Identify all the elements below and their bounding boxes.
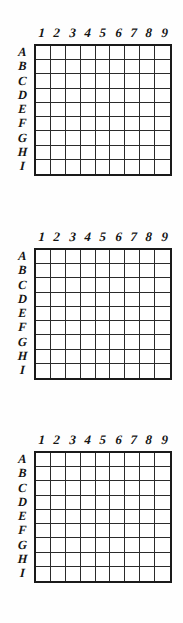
grid-cell[interactable] <box>110 117 125 131</box>
grid-cell[interactable] <box>110 496 125 510</box>
grid-cell[interactable] <box>110 46 125 60</box>
grid-cell[interactable] <box>96 524 111 538</box>
grid-cell[interactable] <box>66 264 81 278</box>
grid-cell[interactable] <box>66 335 81 349</box>
grid-cell[interactable] <box>140 481 155 495</box>
grid-cell[interactable] <box>125 131 140 145</box>
grid-cell[interactable] <box>96 321 111 335</box>
grid-cell[interactable] <box>36 567 51 581</box>
grid-cell[interactable] <box>51 103 66 117</box>
grid-cell[interactable] <box>81 146 96 160</box>
grid-cell[interactable] <box>155 146 170 160</box>
grid-cell[interactable] <box>51 160 66 174</box>
grid-cell[interactable] <box>140 103 155 117</box>
grid-cell[interactable] <box>51 496 66 510</box>
grid-cell[interactable] <box>155 160 170 174</box>
grid-cell[interactable] <box>125 453 140 467</box>
grid-cell[interactable] <box>96 496 111 510</box>
grid-cell[interactable] <box>110 350 125 364</box>
grid-cell[interactable] <box>140 60 155 74</box>
grid-cell[interactable] <box>81 481 96 495</box>
grid-cell[interactable] <box>155 89 170 103</box>
grid-cell[interactable] <box>36 131 51 145</box>
grid-cell[interactable] <box>125 524 140 538</box>
grid-cell[interactable] <box>96 510 111 524</box>
grid-cell[interactable] <box>140 307 155 321</box>
grid-cell[interactable] <box>96 264 111 278</box>
grid-cell[interactable] <box>140 553 155 567</box>
grid-cell[interactable] <box>155 117 170 131</box>
grid-cell[interactable] <box>36 293 51 307</box>
grid-cell[interactable] <box>140 538 155 552</box>
grid-cell[interactable] <box>140 278 155 292</box>
grid-cell[interactable] <box>96 538 111 552</box>
grid-cell[interactable] <box>51 278 66 292</box>
grid-cell[interactable] <box>36 453 51 467</box>
grid-cell[interactable] <box>51 553 66 567</box>
grid-cell[interactable] <box>125 117 140 131</box>
grid-cell[interactable] <box>81 307 96 321</box>
grid-cell[interactable] <box>66 293 81 307</box>
grid-cell[interactable] <box>140 131 155 145</box>
grid-cell[interactable] <box>96 567 111 581</box>
grid-cell[interactable] <box>140 46 155 60</box>
grid-cell[interactable] <box>81 553 96 567</box>
grid-cell[interactable] <box>66 510 81 524</box>
grid-cell[interactable] <box>51 538 66 552</box>
grid-cell[interactable] <box>66 364 81 378</box>
grid-cell[interactable] <box>155 567 170 581</box>
grid-cell[interactable] <box>125 307 140 321</box>
grid-cell[interactable] <box>51 60 66 74</box>
grid-cell[interactable] <box>125 567 140 581</box>
grid-cell[interactable] <box>51 335 66 349</box>
grid-cell[interactable] <box>155 46 170 60</box>
grid-cell[interactable] <box>36 46 51 60</box>
grid-cell[interactable] <box>51 74 66 88</box>
grid-cell[interactable] <box>125 335 140 349</box>
grid-cell[interactable] <box>81 117 96 131</box>
grid-cell[interactable] <box>110 453 125 467</box>
grid-cell[interactable] <box>155 250 170 264</box>
grid-cell[interactable] <box>125 103 140 117</box>
grid-cell[interactable] <box>96 467 111 481</box>
grid-cell[interactable] <box>81 364 96 378</box>
grid-cell[interactable] <box>81 335 96 349</box>
grid-cell[interactable] <box>140 160 155 174</box>
grid-cell[interactable] <box>155 538 170 552</box>
grid-cell[interactable] <box>36 89 51 103</box>
grid-cell[interactable] <box>66 89 81 103</box>
grid-cell[interactable] <box>66 117 81 131</box>
grid-cell[interactable] <box>51 264 66 278</box>
grid-cell[interactable] <box>155 307 170 321</box>
coordinate-grid-2[interactable] <box>34 248 172 380</box>
grid-cell[interactable] <box>110 74 125 88</box>
grid-cell[interactable] <box>66 250 81 264</box>
grid-cell[interactable] <box>155 481 170 495</box>
grid-cell[interactable] <box>36 467 51 481</box>
grid-cell[interactable] <box>66 524 81 538</box>
grid-cell[interactable] <box>110 250 125 264</box>
grid-cell[interactable] <box>66 467 81 481</box>
grid-cell[interactable] <box>51 250 66 264</box>
grid-cell[interactable] <box>125 89 140 103</box>
grid-cell[interactable] <box>96 335 111 349</box>
grid-cell[interactable] <box>140 364 155 378</box>
grid-cell[interactable] <box>51 117 66 131</box>
grid-cell[interactable] <box>125 293 140 307</box>
grid-cell[interactable] <box>110 131 125 145</box>
grid-cell[interactable] <box>110 146 125 160</box>
grid-cell[interactable] <box>81 46 96 60</box>
grid-cell[interactable] <box>125 46 140 60</box>
grid-cell[interactable] <box>140 89 155 103</box>
grid-cell[interactable] <box>81 74 96 88</box>
grid-cell[interactable] <box>96 293 111 307</box>
grid-cell[interactable] <box>155 321 170 335</box>
grid-cell[interactable] <box>36 307 51 321</box>
grid-cell[interactable] <box>155 453 170 467</box>
grid-cell[interactable] <box>155 278 170 292</box>
grid-cell[interactable] <box>81 60 96 74</box>
grid-cell[interactable] <box>96 131 111 145</box>
grid-cell[interactable] <box>155 264 170 278</box>
grid-cell[interactable] <box>36 496 51 510</box>
grid-cell[interactable] <box>140 293 155 307</box>
